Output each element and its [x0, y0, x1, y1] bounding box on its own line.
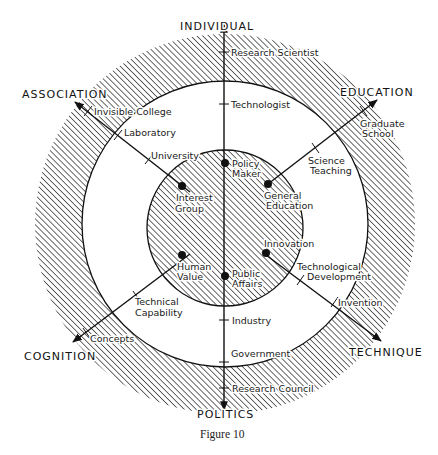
dot-innovation: [262, 249, 270, 257]
dot-interest-group: [178, 182, 186, 190]
label-innovation: Innovation: [264, 238, 314, 249]
label-concepts: Concepts: [90, 333, 134, 344]
label-individual: INDIVIDUAL: [180, 20, 254, 33]
label-human-value-2: Value: [177, 271, 203, 282]
label-research-council: Research Council: [232, 383, 314, 394]
label-research-scientist: Research Scientist: [231, 47, 319, 58]
figure-caption: Figure 10: [200, 428, 245, 441]
label-public-affairs-2: Affairs: [232, 278, 262, 289]
label-government: Government: [231, 348, 291, 359]
label-technical-capability-2: Capability: [135, 307, 183, 318]
concentric-circle-diagram: INDIVIDUAL ASSOCIATION EDUCATION COGNITI…: [0, 0, 438, 455]
label-politics: POLITICS: [197, 408, 254, 421]
label-interest-group-1: Interest: [176, 192, 213, 203]
label-invention: Invention: [338, 297, 383, 308]
label-interest-group-2: Group: [175, 203, 204, 214]
label-cognition: COGNITION: [24, 350, 96, 363]
dot-general-education: [264, 180, 272, 188]
dot-policy-maker: [221, 159, 229, 167]
label-invisible-college: Invisible College: [94, 106, 172, 117]
label-association: ASSOCIATION: [22, 88, 108, 101]
label-science-teaching-2: Teaching: [309, 165, 352, 176]
label-university: University: [151, 150, 199, 161]
label-general-education-2: Education: [266, 200, 313, 211]
label-industry: Industry: [232, 315, 271, 326]
dot-human-value: [178, 251, 186, 259]
label-technique: TECHNIQUE: [348, 346, 423, 359]
label-policy-maker-2: Maker: [232, 168, 261, 179]
label-technical-capability-1: Technical: [134, 296, 179, 307]
label-technologist: Technologist: [230, 99, 290, 110]
label-graduate-school-2: School: [362, 128, 394, 139]
label-technological-development-2: Development: [307, 271, 371, 282]
dot-public-affairs: [221, 272, 229, 280]
label-laboratory: Laboratory: [124, 127, 176, 138]
label-education: EDUCATION: [340, 86, 414, 99]
inner-hatched-circle: [147, 150, 303, 306]
